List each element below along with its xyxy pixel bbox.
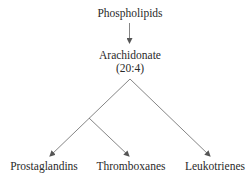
arrow-arachidonate-to-prostaglandins [50, 79, 130, 156]
pathway-edges [0, 0, 252, 180]
node-prostaglandins: Prostaglandins [4, 160, 84, 173]
node-phospholipids: Phospholipids [90, 7, 170, 20]
arrow-arachidonate-to-leukotrienes [130, 79, 210, 156]
node-thromboxanes: Thromboxanes [93, 160, 169, 173]
node-arachidonate: Arachidonate [90, 49, 170, 62]
node-arachidonate-ratio: (20:4) [100, 62, 160, 75]
arrow-branch-to-thromboxanes [89, 118, 129, 156]
node-leukotrienes: Leukotrienes [180, 160, 250, 173]
